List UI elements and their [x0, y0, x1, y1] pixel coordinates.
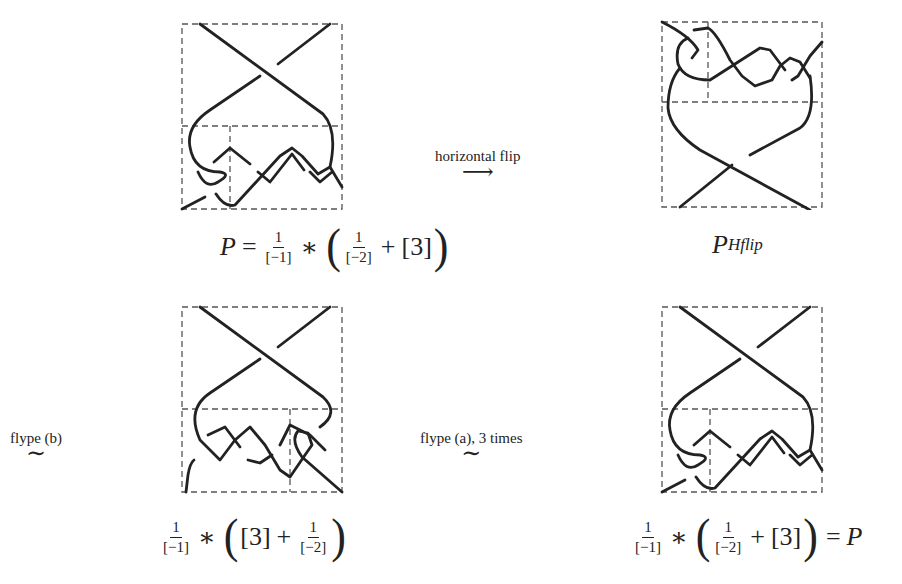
equivalence-tilde-icon: ∼ — [10, 447, 62, 459]
tangle-flype-b — [180, 305, 345, 495]
formula-flype-a: 1[−1] ∗ ( 1[−2] + [3] ) = P — [632, 515, 862, 559]
symbol-P: P — [220, 232, 236, 262]
right-arrow-icon: ⟶ — [435, 165, 520, 179]
transition-flype-a: flype (a), 3 times ∼ — [420, 430, 522, 459]
formula-P: P = 1[−1] ∗ ( 1[−2] + [3] ) — [220, 225, 450, 269]
fraction: 1[−1] — [163, 520, 189, 555]
tangle-P — [180, 22, 345, 212]
fraction: 1[−2] — [346, 230, 372, 265]
fraction: 1[−2] — [715, 520, 741, 555]
equivalence-tilde-icon: ∼ — [420, 447, 522, 459]
formula-P-Hflip: PHflip — [712, 230, 763, 260]
fraction: 1[−2] — [300, 520, 326, 555]
tangle-flype-a — [660, 305, 825, 495]
tangle-P-Hflip — [660, 20, 825, 210]
fraction: 1[−1] — [266, 230, 292, 265]
formula-flype-b: 1[−1] ∗ ( [3] + 1[−2] ) — [160, 515, 348, 559]
transition-horizontal-flip: horizontal flip ⟶ — [435, 148, 520, 179]
fraction: 1[−1] — [635, 520, 661, 555]
transition-flype-b: flype (b) ∼ — [10, 430, 62, 459]
